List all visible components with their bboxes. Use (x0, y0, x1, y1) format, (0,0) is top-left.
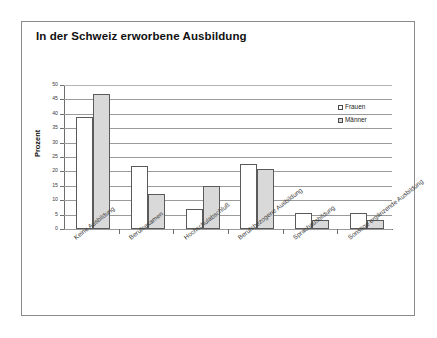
bar-frauen (76, 117, 93, 229)
y-axis-tick-label: 15 (52, 183, 58, 188)
legend-swatch-gray-icon (338, 118, 343, 123)
gridline (64, 85, 392, 86)
y-axis-tick-label: 25 (52, 154, 58, 159)
y-axis-tick (60, 157, 64, 158)
gridline (64, 186, 392, 187)
y-axis-title: Prozent (33, 130, 42, 157)
figure-canvas: In der Schweiz erworbene Ausbildung Proz… (0, 0, 437, 338)
y-axis-tick-label: 10 (52, 198, 58, 203)
chart-title: In der Schweiz erworbene Ausbildung (36, 30, 247, 42)
chart-legend: Frauen Männer (338, 101, 394, 127)
gridline (64, 128, 392, 129)
legend-label-frauen: Frauen (345, 104, 365, 110)
y-axis-tick-label: 45 (52, 97, 58, 102)
x-axis-tick (283, 229, 284, 234)
gridline (64, 171, 392, 172)
y-axis-tick-label: 30 (52, 140, 58, 145)
y-axis-tick-label: 5 (55, 212, 58, 217)
y-axis-tick (60, 229, 64, 230)
legend-item-frauen: Frauen (338, 101, 394, 114)
y-axis-tick (60, 215, 64, 216)
x-axis-tick (228, 229, 229, 234)
y-axis-tick-label: 50 (52, 82, 58, 87)
legend-label-maenner: Männer (345, 117, 367, 123)
y-axis-tick (60, 114, 64, 115)
x-axis-tick (337, 229, 338, 234)
y-axis-tick (60, 85, 64, 86)
gridline (64, 200, 392, 201)
x-axis-tick (119, 229, 120, 234)
y-axis-tick (60, 143, 64, 144)
y-axis-tick (60, 99, 64, 100)
gridline (64, 157, 392, 158)
gridline (64, 143, 392, 144)
y-axis-tick-label: 0 (55, 226, 58, 231)
legend-item-maenner: Männer (338, 114, 394, 127)
legend-swatch-white-icon (338, 105, 343, 110)
y-axis-tick (60, 171, 64, 172)
y-axis-tick (60, 200, 64, 201)
y-axis-tick-label: 20 (52, 169, 58, 174)
y-axis-tick (60, 186, 64, 187)
gridline (64, 215, 392, 216)
y-axis-tick-label: 40 (52, 111, 58, 116)
y-axis-tick (60, 128, 64, 129)
x-axis-tick (173, 229, 174, 234)
y-axis-tick-label: 35 (52, 126, 58, 131)
